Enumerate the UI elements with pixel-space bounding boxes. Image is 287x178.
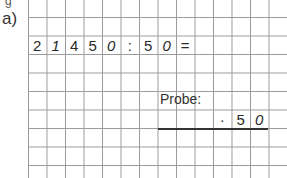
digit-cell: 0 <box>102 36 121 55</box>
clipped-heading-fragment: g <box>5 0 12 8</box>
probe-label: Probe: <box>160 91 201 107</box>
digit-cell: 0 <box>250 110 269 129</box>
task-label: a) <box>2 9 17 29</box>
digit-cell: 1 <box>47 36 66 55</box>
digit-cell: 2 <box>28 36 47 55</box>
digit-cell: 0 <box>158 36 177 55</box>
answer-area[interactable] <box>195 36 287 55</box>
multiply-sign: · <box>213 110 232 129</box>
digit-cell: 4 <box>65 36 84 55</box>
digit-cell: 5 <box>139 36 158 55</box>
probe-result-line <box>158 128 268 130</box>
digit-cell: 5 <box>84 36 103 55</box>
probe-answer-area[interactable] <box>158 110 213 129</box>
division-sign: : <box>121 36 140 55</box>
digit-cell: 5 <box>232 110 251 129</box>
grid-top-stubs <box>28 0 287 17</box>
equals-sign: = <box>176 36 195 55</box>
